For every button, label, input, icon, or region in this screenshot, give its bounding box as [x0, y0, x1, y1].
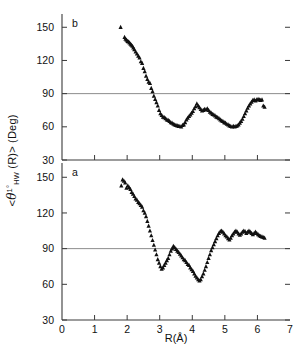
data-point [208, 252, 212, 256]
data-point [156, 257, 160, 261]
y-tick-label-top-30: 30 [42, 154, 54, 166]
data-point [148, 228, 152, 232]
y-axis-label-superscript: 1° [5, 184, 14, 192]
data-series-panel-b [119, 25, 267, 129]
data-point [147, 224, 151, 228]
y-tick-label-bottom-150: 150 [36, 171, 54, 183]
data-point [119, 25, 123, 29]
y-tick-label-top-150: 150 [36, 21, 54, 33]
data-point [141, 66, 145, 70]
data-point [150, 238, 154, 242]
data-point [153, 247, 157, 251]
data-point [205, 260, 209, 264]
data-point [154, 252, 158, 256]
y-axis-label-theta: θ [5, 192, 19, 199]
y-tick-label-top-120: 120 [36, 54, 54, 66]
y-axis-label-argument: (R)> (Deg) [6, 114, 18, 168]
data-series-panel-a [119, 177, 267, 282]
y-tick-label-bottom-120: 120 [36, 207, 54, 219]
y-tick-label-top-90: 90 [42, 87, 54, 99]
data-point [152, 243, 156, 247]
data-point [119, 183, 123, 187]
y-tick-label-bottom-30: 30 [42, 314, 54, 326]
y-tick-label-bottom-60: 60 [42, 278, 54, 290]
data-point [204, 264, 208, 268]
data-point [157, 108, 161, 112]
data-point [145, 219, 149, 223]
y-tick-label-top-60: 60 [42, 120, 54, 132]
data-point [149, 233, 153, 237]
figure-container: <θ1°HW (R)> (Deg) 3060901201503060901201… [0, 0, 304, 355]
panel-label-a: a [72, 166, 78, 178]
y-axis-label-subscript: HW [12, 171, 21, 184]
data-point [149, 86, 153, 90]
y-axis-label: <θ1°HW (R)> (Deg) [5, 114, 22, 206]
panel-label-b: b [72, 17, 78, 29]
data-point [144, 74, 148, 78]
y-tick-label-bottom-90: 90 [42, 242, 54, 254]
y-axis-label-container: <θ1°HW (R)> (Deg) [0, 0, 26, 320]
y-axis-label-prefix: < [6, 199, 18, 206]
plot-canvas: 30609012015030609012015001234567ba [0, 0, 304, 355]
x-axis-label: R(Å) [62, 332, 290, 344]
